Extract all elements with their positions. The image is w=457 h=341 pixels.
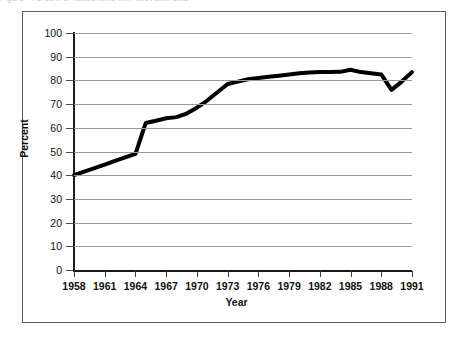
x-tick-1970 — [197, 271, 198, 277]
caption-remnant: Figure · Percent of households with tele… — [0, 0, 457, 6]
x-tick-1979 — [289, 271, 290, 277]
y-tick-10 — [66, 246, 73, 247]
x-tick-label-1991: 1991 — [392, 281, 432, 292]
x-tick-1961 — [105, 271, 106, 277]
y-tick-50 — [66, 152, 73, 153]
plot-area — [74, 33, 412, 270]
x-axis-title: Year — [0, 297, 457, 308]
y-tick-40 — [66, 175, 73, 176]
gridline-60 — [74, 128, 412, 129]
y-tick-90 — [66, 57, 73, 58]
x-tick-1973 — [228, 271, 229, 277]
y-tick-label-10: 10 — [22, 241, 62, 252]
gridline-0 — [74, 270, 412, 272]
y-tick-label-30: 30 — [22, 194, 62, 205]
y-tick-0 — [66, 270, 73, 271]
x-tick-1967 — [166, 271, 167, 277]
gridline-80 — [74, 80, 412, 81]
gridline-70 — [74, 104, 412, 105]
y-tick-20 — [66, 223, 73, 224]
chart-figure: Figure · Percent of households with tele… — [0, 0, 457, 341]
y-tick-label-80: 80 — [22, 75, 62, 86]
y-tick-70 — [66, 104, 73, 105]
gridline-40 — [74, 175, 412, 176]
y-tick-label-40: 40 — [22, 170, 62, 181]
x-tick-1988 — [381, 271, 382, 277]
y-tick-30 — [66, 199, 73, 200]
y-tick-label-100: 100 — [22, 28, 62, 39]
y-tick-label-0: 0 — [22, 265, 62, 276]
x-tick-1976 — [258, 271, 259, 277]
gridline-100 — [74, 33, 412, 34]
x-tick-1964 — [135, 271, 136, 277]
gridline-90 — [74, 57, 412, 58]
y-tick-60 — [66, 128, 73, 129]
x-tick-1985 — [351, 271, 352, 277]
series-polyline — [74, 70, 412, 175]
gridline-20 — [74, 223, 412, 224]
y-tick-label-20: 20 — [22, 218, 62, 229]
x-tick-1991 — [412, 271, 413, 277]
gridline-10 — [74, 246, 412, 247]
x-tick-1982 — [320, 271, 321, 277]
y-tick-100 — [66, 33, 73, 34]
y-axis-title: Percent — [19, 109, 30, 169]
gridline-30 — [74, 199, 412, 200]
x-tick-1958 — [74, 271, 75, 277]
gridline-50 — [74, 152, 412, 153]
y-tick-80 — [66, 80, 73, 81]
y-tick-label-90: 90 — [22, 52, 62, 63]
